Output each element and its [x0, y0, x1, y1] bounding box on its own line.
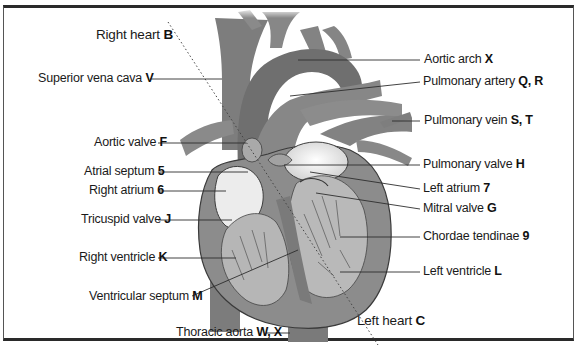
- label-pulmonary-valve: Pulmonary valve H: [423, 157, 525, 171]
- label-superior-vena-cava: Superior vena cava V: [38, 71, 154, 85]
- label-ventricular-septum: Ventricular septum M: [89, 289, 202, 303]
- label-thoracic-aorta: Thoracic aorta W, X: [176, 325, 282, 339]
- label-aortic-valve: Aortic valve F: [94, 135, 167, 149]
- label-chordae-tendinae: Chordae tendinae 9: [423, 229, 529, 243]
- label-left-ventricle: Left ventricle L: [423, 264, 502, 278]
- label-right-heart: Right heart B: [96, 27, 173, 42]
- label-atrial-septum: Atrial septum 5: [84, 164, 164, 178]
- label-mitral-valve: Mitral valve G: [423, 201, 497, 215]
- label-tricuspid-valve: Tricuspid valve J: [81, 212, 171, 226]
- label-left-heart: Left heart C: [357, 313, 425, 328]
- label-right-atrium: Right atrium 6: [89, 183, 164, 197]
- label-pulmonary-artery: Pulmonary artery Q, R: [423, 74, 543, 88]
- label-left-atrium: Left atrium 7: [423, 181, 490, 195]
- label-aortic-arch: Aortic arch X: [424, 52, 493, 66]
- label-right-ventricle: Right ventricle K: [79, 250, 167, 264]
- aortic-valve-shape: [242, 138, 262, 162]
- label-pulmonary-vein: Pulmonary vein S, T: [424, 113, 533, 127]
